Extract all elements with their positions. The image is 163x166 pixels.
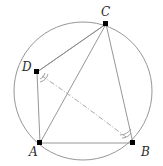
dashdot-arc-DB — [42, 76, 126, 137]
vertex-label-D: D — [22, 61, 32, 73]
geometry-figure: A B C D — [0, 0, 163, 166]
segment-AC — [40, 24, 106, 143]
vertex-label-C: C — [101, 6, 110, 18]
vertex-label-A: A — [29, 146, 38, 158]
segment-AD — [37, 72, 40, 143]
circumcircle — [14, 22, 152, 160]
vertex-point-B — [130, 140, 135, 145]
geometry-canvas — [0, 0, 163, 166]
segment-DC-dup — [37, 24, 106, 72]
vertex-point-C — [103, 21, 108, 26]
angle-arc-B-outer — [120, 129, 131, 135]
vertex-label-B: B — [141, 146, 150, 158]
vertex-point-D — [34, 69, 39, 74]
